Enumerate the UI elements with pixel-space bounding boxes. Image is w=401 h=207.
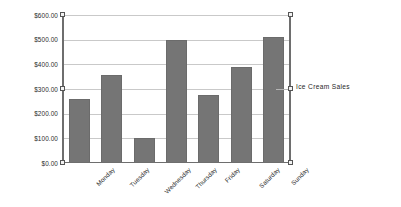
- bar-friday[interactable]: [198, 95, 219, 163]
- y-axis-tick-label: $300.00: [2, 86, 58, 93]
- x-axis-tick-label: Sunday: [289, 166, 309, 186]
- y-axis-tick-label: $600.00: [2, 12, 58, 19]
- x-axis-tick-label: Saturday: [258, 166, 281, 189]
- bar-thursday[interactable]: [166, 40, 187, 163]
- y-axis-tick-label: $200.00: [2, 110, 58, 117]
- handle-top-left[interactable]: [60, 12, 65, 17]
- handle-middle-left[interactable]: [60, 86, 65, 91]
- y-axis-tick-label: $0.00: [2, 160, 58, 167]
- handle-bottom-right[interactable]: [288, 160, 293, 165]
- x-axis-tick-label: Wednesday: [163, 166, 192, 195]
- plot-area[interactable]: [63, 15, 290, 163]
- x-axis-tick-label: Tuesday: [128, 166, 150, 188]
- handle-bottom-left[interactable]: [60, 160, 65, 165]
- gridline: [63, 15, 290, 16]
- bar-sunday[interactable]: [263, 37, 284, 163]
- bar-saturday[interactable]: [231, 67, 252, 163]
- bar-monday[interactable]: [69, 99, 90, 163]
- y-axis-tick-label: $400.00: [2, 61, 58, 68]
- y-axis-tick-label: $500.00: [2, 36, 58, 43]
- x-axis-tick-label: Thursday: [193, 166, 217, 190]
- ice-cream-sales-chart[interactable]: $0.00$100.00$200.00$300.00$400.00$500.00…: [0, 0, 401, 207]
- x-axis-labels: MondayTuesdayWednesdayThursdayFridaySatu…: [63, 163, 290, 207]
- x-axis-tick-label: Friday: [223, 166, 241, 184]
- legend-label: Ice Cream Sales: [296, 83, 350, 90]
- chart-legend[interactable]: Ice Cream Sales: [296, 83, 350, 90]
- bar-tuesday[interactable]: [101, 75, 122, 163]
- handle-middle-right[interactable]: [288, 86, 293, 91]
- bar-wednesday[interactable]: [134, 138, 155, 163]
- y-axis-tick-label: $100.00: [2, 135, 58, 142]
- x-axis-tick-label: Monday: [95, 166, 116, 187]
- y-axis-labels: $0.00$100.00$200.00$300.00$400.00$500.00…: [0, 0, 58, 207]
- handle-top-right[interactable]: [288, 12, 293, 17]
